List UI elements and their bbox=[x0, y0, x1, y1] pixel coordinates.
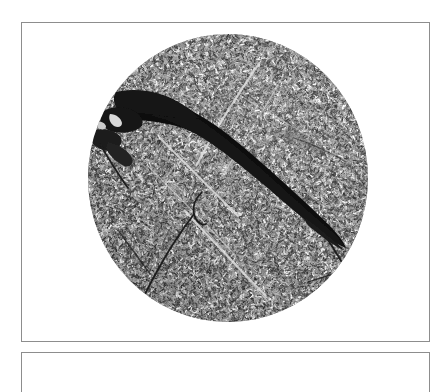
micrograph-grain-texture bbox=[88, 34, 368, 322]
micrograph-panel bbox=[21, 22, 430, 342]
micrograph-circular-field bbox=[88, 34, 368, 322]
second-figure-panel bbox=[21, 352, 430, 392]
